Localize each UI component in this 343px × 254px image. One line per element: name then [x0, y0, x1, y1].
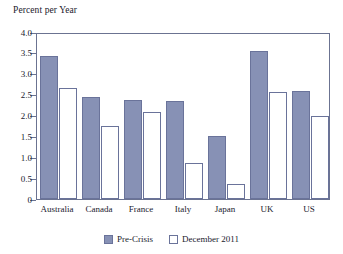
bar-us-december-2011 — [311, 116, 329, 200]
y-axis-label: 1.5 — [21, 133, 32, 142]
bar-australia-december-2011 — [59, 88, 77, 199]
y-axis-label: 3.0 — [21, 70, 32, 79]
bar-group — [166, 34, 203, 199]
bar-canada-pre-crisis — [82, 97, 100, 199]
x-axis-label-france: France — [120, 204, 162, 214]
legend-swatch-icon — [104, 235, 113, 244]
x-axis-label-canada: Canada — [78, 204, 120, 214]
y-axis-label: 4.0 — [21, 29, 32, 38]
x-axis-label-australia: Australia — [36, 204, 78, 214]
bar-uk-pre-crisis — [250, 51, 268, 199]
legend-label: December 2011 — [182, 234, 239, 244]
bar-us-pre-crisis — [292, 91, 310, 199]
y-axis-label: 1.0 — [21, 154, 32, 163]
x-axis-label-italy: Italy — [162, 204, 204, 214]
bar-canada-december-2011 — [101, 126, 119, 199]
bar-group — [292, 34, 329, 199]
bar-group — [124, 34, 161, 199]
chart-axis-title: Percent per Year — [13, 5, 77, 15]
bar-australia-pre-crisis — [40, 56, 58, 199]
bar-group — [82, 34, 119, 199]
x-axis-label-uk: UK — [246, 204, 288, 214]
bar-italy-pre-crisis — [166, 101, 184, 199]
x-axis-label-us: US — [288, 204, 330, 214]
bar-france-pre-crisis — [124, 100, 142, 199]
bar-uk-december-2011 — [269, 92, 287, 199]
bar-chart: Percent per Year Pre-CrisisDecember 2011… — [0, 0, 343, 254]
bar-japan-december-2011 — [227, 184, 245, 199]
bar-france-december-2011 — [143, 112, 161, 199]
y-axis-label: 0.5 — [21, 175, 32, 184]
legend-label: Pre-Crisis — [117, 234, 153, 244]
bar-italy-december-2011 — [185, 163, 203, 199]
legend-swatch-icon — [169, 235, 178, 244]
plot-area — [36, 33, 330, 200]
y-axis-label: 2.0 — [21, 112, 32, 121]
bar-group — [208, 34, 245, 199]
y-axis-label: 2.5 — [21, 91, 32, 100]
chart-legend: Pre-CrisisDecember 2011 — [0, 234, 343, 244]
y-axis-label: 0 — [28, 196, 33, 205]
legend-item-pre-crisis[interactable]: Pre-Crisis — [104, 234, 153, 244]
y-axis-label: 3.5 — [21, 49, 32, 58]
legend-item-december-2011[interactable]: December 2011 — [169, 234, 239, 244]
bar-group — [250, 34, 287, 199]
bar-japan-pre-crisis — [208, 136, 226, 199]
x-axis-label-japan: Japan — [204, 204, 246, 214]
bar-group — [40, 34, 77, 199]
